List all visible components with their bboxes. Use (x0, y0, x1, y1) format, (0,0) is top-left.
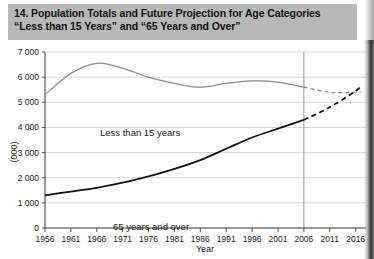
series-less-than-15-actual-line (45, 63, 304, 95)
y-tick-label: 3 000 (18, 148, 40, 158)
x-tick-label: 1996 (243, 234, 262, 244)
x-tick-label: 1961 (61, 234, 80, 244)
y-tick-label: 2 000 (18, 173, 40, 183)
figure-title-line-2: “Less than 15 Years” and “65 Years and O… (14, 20, 357, 33)
x-tick-label: 2016 (346, 234, 365, 244)
gridlines-group (45, 52, 366, 203)
series-65-and-over-projection-line (304, 86, 361, 120)
series-less-than-15-projection-line (304, 87, 361, 92)
series-65-and-over-annotation: 65 years and over (113, 221, 189, 232)
x-tick-label: 1956 (36, 234, 55, 244)
y-tick-labels-group: 01 0002 0003 0004 0005 0006 0007 000 (18, 47, 40, 233)
x-tick-label: 1981 (165, 234, 184, 244)
figure-title-box: 14. Population Totals and Future Project… (8, 4, 357, 40)
x-tick-label: 1976 (139, 234, 158, 244)
x-tick-label: 2001 (269, 234, 288, 244)
scan-edge-artifact-top (364, 0, 374, 44)
series-less-than-15-annotation: Less than 15 years (100, 127, 181, 138)
figure-title-line-1: 14. Population Totals and Future Project… (14, 7, 357, 20)
line-chart: 01 0002 0003 0004 0005 0006 0007 000 195… (0, 40, 374, 259)
y-tick-label: 4 000 (18, 122, 40, 132)
y-axis-unit-label: (000) (9, 141, 19, 162)
x-tick-marks-group (45, 228, 356, 232)
x-tick-label: 1971 (113, 234, 132, 244)
x-tick-labels-group: 1956196119661971197619811986199119962001… (36, 234, 366, 244)
x-tick-label: 2006 (294, 234, 313, 244)
x-tick-label: 2011 (321, 234, 340, 244)
y-tick-label: 0 (34, 223, 39, 233)
y-tick-label: 6 000 (18, 72, 40, 82)
y-tick-label: 7 000 (18, 47, 40, 57)
chart-area: 01 0002 0003 0004 0005 0006 0007 000 195… (0, 40, 374, 259)
x-tick-label: 1966 (87, 234, 106, 244)
figure-container: 14. Population Totals and Future Project… (0, 0, 374, 259)
y-tick-label: 5 000 (18, 97, 40, 107)
x-axis-label: Year (196, 244, 214, 254)
x-tick-label: 1986 (191, 234, 210, 244)
x-tick-label: 1991 (217, 234, 236, 244)
y-tick-label: 1 000 (18, 198, 40, 208)
